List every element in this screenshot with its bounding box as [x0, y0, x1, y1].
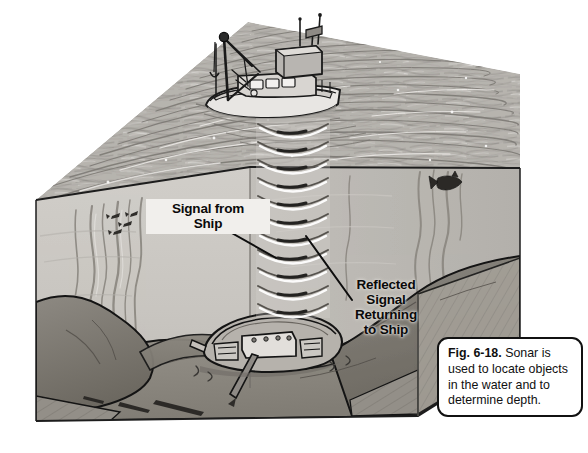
- figure-stage: Signal from Ship Reflected Signal Return…: [0, 0, 588, 453]
- callout-reflected-signal: Reflected Signal Returning to Ship: [332, 277, 440, 337]
- figure-number: Fig. 6-18.: [448, 346, 502, 360]
- figure-caption: Fig. 6-18. Sonar is used to locate objec…: [437, 337, 583, 417]
- callout-signal-from-ship: Signal from Ship: [146, 199, 270, 234]
